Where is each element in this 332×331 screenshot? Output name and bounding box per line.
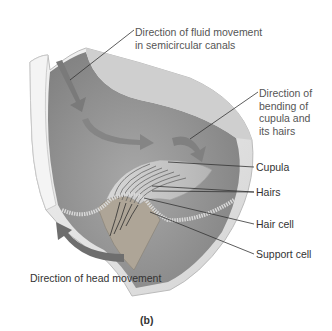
label-fluid-movement: Direction of fluid movement in semicircu… <box>135 26 262 51</box>
label-bending-line-4: its hairs <box>259 125 312 138</box>
label-bending-line-1: Direction of <box>259 87 312 100</box>
label-bending-line-2: bending of <box>259 100 312 113</box>
label-fluid-line-2: in semicircular canals <box>135 39 262 52</box>
subfigure-label: (b) <box>140 314 153 326</box>
label-head-movement: Direction of head movement <box>30 272 161 285</box>
label-hair-cell: Hair cell <box>256 218 294 231</box>
label-bending-line-3: cupula and <box>259 112 312 125</box>
label-cupula: Cupula <box>256 161 289 174</box>
label-hairs: Hairs <box>256 186 281 199</box>
label-support-cell: Support cell <box>256 248 311 261</box>
label-bending: Direction of bending of cupula and its h… <box>259 87 312 137</box>
label-fluid-line-1: Direction of fluid movement <box>135 26 262 39</box>
